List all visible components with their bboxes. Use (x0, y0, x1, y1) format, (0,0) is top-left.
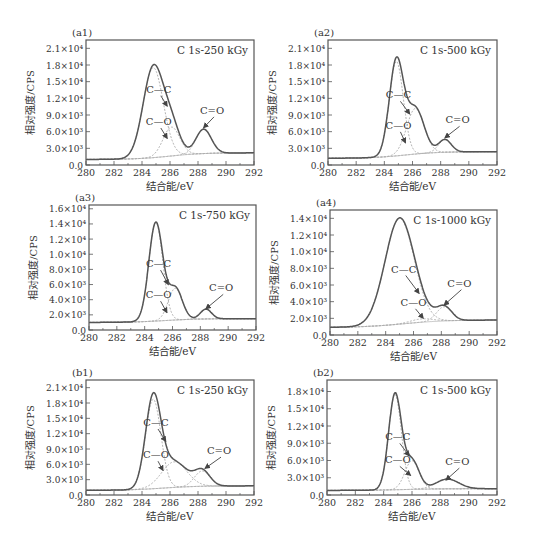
xps-c1s-figure: (a1)2802822842862882902920.03.0×10³6.0×1… (0, 0, 533, 555)
y-tick-label: 1.2×10⁴ (49, 235, 86, 245)
panel-label: (a1) (72, 27, 92, 38)
panel-label: (a4) (316, 197, 336, 208)
y-tick-label: 6.0×10³ (46, 127, 83, 137)
chart-title: C 1s-500 kGy (420, 44, 491, 56)
envelope-curve (86, 393, 254, 491)
plot-frame (89, 205, 256, 330)
y-tick-label: 9.0×10³ (46, 445, 83, 455)
y-tick-label: 0.0 (310, 491, 325, 501)
x-tick-label: 288 (191, 332, 209, 343)
x-tick-label: 286 (403, 497, 421, 508)
peak-annotation: C—C (385, 431, 411, 442)
x-axis-label: 结合能/eV (390, 350, 438, 362)
y-tick-label: 1.2×10⁴ (287, 422, 324, 432)
x-tick-label: 290 (217, 167, 235, 178)
y-tick-label: 4.0×10³ (290, 297, 327, 307)
y-tick-label: 9.0×10³ (287, 439, 324, 449)
x-tick-label: 288 (432, 337, 450, 348)
x-tick-label: 290 (460, 497, 478, 508)
x-tick-label: 282 (105, 497, 123, 508)
y-axis-label: 相对强度/CPS (266, 70, 278, 135)
peak-annotation: C—O (401, 297, 427, 308)
x-tick-label: 282 (105, 167, 123, 178)
y-tick-label: 3.0×10³ (46, 475, 83, 485)
envelope-curve (328, 57, 497, 159)
x-tick-label: 286 (403, 167, 421, 178)
y-axis-label: 相对强度/CPS (24, 70, 36, 135)
y-tick-label: 1.2×10⁴ (290, 231, 327, 241)
y-tick-label: 1.5×10⁴ (287, 404, 324, 414)
chart-panel-b2: (b2)2802822842862882902920.03.0×10³6.0×1… (265, 367, 506, 522)
envelope-curve (327, 393, 497, 491)
y-tick-label: 3.0×10³ (288, 144, 325, 154)
chart-panel-a1: (a1)2802822842862882902920.03.0×10³6.0×1… (24, 27, 263, 192)
y-tick-label: 2.1×10⁴ (46, 44, 83, 54)
y-tick-label: 6.0×10³ (290, 281, 327, 291)
peak-annotation: C=O (447, 278, 471, 289)
y-tick-label: 1.2×10⁴ (46, 429, 83, 439)
y-tick-label: 4.0×10³ (49, 295, 86, 305)
peak-annotation: C—C (146, 84, 172, 95)
y-tick-label: 1.4×10⁴ (290, 214, 327, 224)
x-tick-label: 286 (161, 167, 179, 178)
y-axis-label: 相对强度/CPS (265, 405, 277, 470)
x-tick-label: 292 (488, 167, 506, 178)
panel-label: (a2) (314, 27, 334, 38)
y-tick-label: 2.0×10³ (49, 310, 86, 320)
x-tick-label: 282 (108, 332, 126, 343)
chart-panel-b1: (b1)2802822842862882902920.03.0×10³6.0×1… (24, 367, 263, 522)
x-tick-label: 290 (460, 167, 478, 178)
annotation-arrow (161, 96, 167, 106)
x-tick-label: 288 (432, 167, 450, 178)
annotation-arrow (444, 290, 461, 305)
x-tick-label: 292 (245, 167, 263, 178)
fit-component-co (328, 109, 497, 159)
y-tick-label: 8.0×10³ (290, 264, 327, 274)
annotation-arrow (400, 466, 411, 475)
y-tick-label: 1.8×10⁴ (46, 399, 83, 409)
y-tick-label: 1.5×10⁴ (288, 77, 325, 87)
fit-component-cc (86, 68, 254, 160)
x-axis-label: 结合能/eV (388, 510, 436, 522)
peak-annotation: C—C (143, 417, 169, 428)
x-tick-label: 286 (161, 497, 179, 508)
x-tick-label: 288 (431, 497, 449, 508)
y-tick-label: 8.0×10³ (49, 265, 86, 275)
figure-canvas: (a1)2802822842862882902920.03.0×10³6.0×1… (0, 0, 533, 555)
y-tick-label: 1.0×10⁴ (49, 250, 86, 260)
y-tick-label: 1.5×10⁴ (46, 77, 83, 87)
x-tick-label: 284 (377, 337, 395, 348)
envelope-curve (89, 222, 256, 322)
annotation-arrow (400, 132, 405, 143)
envelope-curve (86, 65, 254, 160)
plot-frame (86, 380, 254, 495)
y-tick-label: 2.1×10⁴ (46, 383, 83, 393)
annotation-arrow (206, 294, 223, 308)
annotation-arrow (158, 461, 163, 470)
x-tick-label: 286 (163, 332, 181, 343)
fit-component-cc (328, 61, 497, 158)
y-axis-label: 相对强度/CPS (268, 240, 280, 305)
y-tick-label: 0.0 (72, 326, 87, 336)
y-tick-label: 6.0×10³ (288, 127, 325, 137)
x-tick-label: 288 (189, 497, 207, 508)
x-tick-label: 290 (460, 337, 478, 348)
x-tick-label: 284 (375, 167, 393, 178)
x-axis-label: 结合能/eV (149, 345, 197, 357)
y-tick-label: 1.8×10⁴ (287, 387, 324, 397)
panel-label: (b2) (313, 367, 334, 378)
plot-frame (328, 40, 497, 165)
y-tick-label: 1.2×10⁴ (46, 94, 83, 104)
chart-title: C 1s-500 kGy (420, 384, 491, 396)
y-tick-label: 1.8×10⁴ (46, 61, 83, 71)
peak-annotation: C—O (385, 120, 411, 131)
x-tick-label: 284 (136, 332, 154, 343)
x-tick-label: 286 (404, 337, 422, 348)
x-tick-label: 290 (219, 332, 237, 343)
y-tick-label: 9.0×10³ (288, 111, 325, 121)
peak-annotation: C=O (200, 105, 224, 116)
chart-title: C 1s-1000 kGy (413, 214, 491, 226)
y-tick-label: 1.4×10⁴ (49, 219, 86, 229)
x-axis-label: 结合能/eV (146, 180, 194, 192)
peak-annotation: C=O (207, 445, 231, 456)
